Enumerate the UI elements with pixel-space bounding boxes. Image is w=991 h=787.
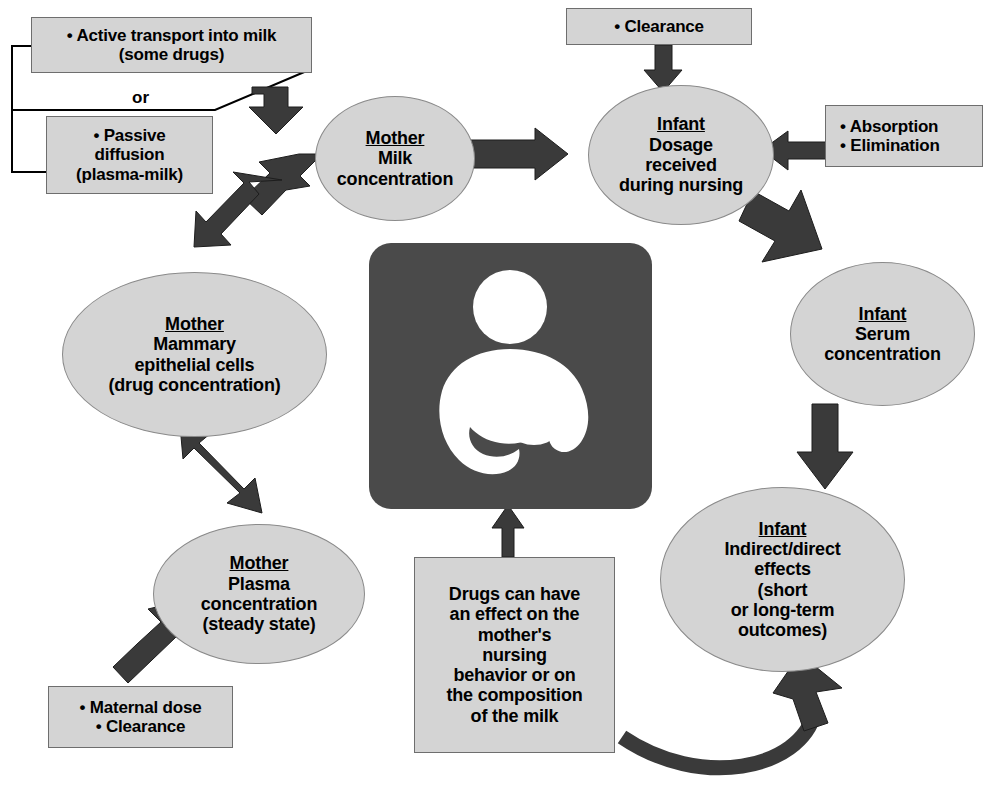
node-passive-diffusion-text: • Passivediffusion(plasma-milk) — [47, 126, 212, 184]
node-active-transport-text: • Active transport into milk(some drugs) — [32, 26, 311, 64]
node-infant-dosage[interactable]: InfantDosagereceivedduring nursing — [588, 85, 774, 225]
node-active-transport[interactable]: • Active transport into milk(some drugs) — [31, 17, 312, 73]
node-maternal-dose[interactable]: • Maternal dose• Clearance — [48, 686, 233, 748]
arrow-drugeffect-to-effects-curve — [622, 712, 815, 768]
diagram-canvas: • Active transport into milk(some drugs)… — [0, 0, 991, 787]
node-infant-dosage-text: InfantDosagereceivedduring nursing — [589, 114, 773, 195]
or-label: or — [132, 88, 149, 108]
arrow-dosage-to-serum — [739, 190, 822, 262]
node-drug-effect[interactable]: Drugs can havean effect on themother'snu… — [414, 557, 615, 753]
node-mother-plasma[interactable]: MotherPlasmaconcentration(steady state) — [153, 524, 365, 664]
node-infant-serum-text: InfantSerumconcentration — [791, 304, 974, 365]
node-infant-effects-text: InfantIndirect/directeffects(shortor lon… — [661, 519, 904, 641]
arrow-serum-to-effects — [797, 404, 853, 489]
international-breastfeeding-symbol — [369, 243, 652, 509]
node-mother-milk-text: MotherMilkconcentration — [316, 128, 474, 189]
node-absorption-elimination[interactable]: • Absorption• Elimination — [825, 105, 983, 167]
node-drug-effect-text: Drugs can havean effect on themother'snu… — [415, 584, 614, 726]
arrow-transport-to-milk — [249, 87, 303, 134]
arrow-milk-to-dosage — [470, 128, 568, 180]
node-clearance[interactable]: • Clearance — [566, 8, 752, 45]
arrow-drugeffect-to-symbol — [492, 505, 524, 557]
arrow-mammary-plasma-double — [180, 425, 262, 513]
node-passive-diffusion[interactable]: • Passivediffusion(plasma-milk) — [46, 116, 213, 194]
node-mother-plasma-text: MotherPlasmaconcentration(steady state) — [154, 553, 364, 634]
breastfeeding-symbol-figure — [369, 243, 652, 509]
node-infant-serum[interactable]: InfantSerumconcentration — [790, 262, 975, 406]
node-mother-mammary[interactable]: MotherMammaryepithelial cells(drug conce… — [62, 272, 327, 437]
node-mother-milk[interactable]: MotherMilkconcentration — [315, 96, 475, 221]
node-maternal-dose-text: • Maternal dose• Clearance — [49, 698, 232, 736]
node-absorption-elimination-text: • Absorption• Elimination — [826, 117, 982, 155]
node-clearance-text: • Clearance — [567, 17, 751, 36]
node-infant-effects[interactable]: InfantIndirect/directeffects(shortor lon… — [660, 487, 905, 672]
arrow-diffusion-to-milk — [244, 154, 322, 215]
node-mother-mammary-text: MotherMammaryepithelial cells(drug conce… — [63, 314, 326, 395]
